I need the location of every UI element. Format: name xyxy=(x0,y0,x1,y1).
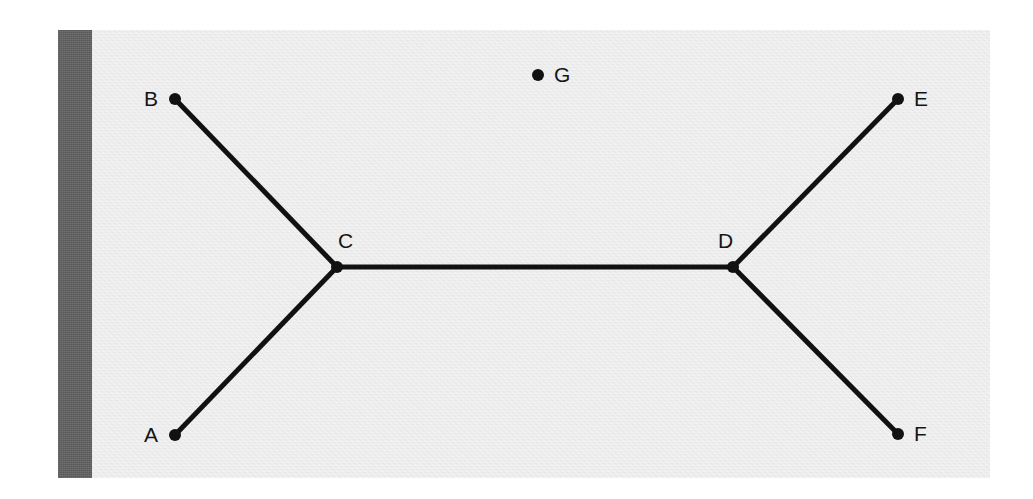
graph-node-label-D: D xyxy=(718,230,733,251)
graph-node-label-A: A xyxy=(144,424,158,445)
graph-edge-B-C xyxy=(175,99,337,267)
graph-node-B xyxy=(169,93,181,105)
graph-edge-D-F xyxy=(733,267,898,434)
graph-node-E xyxy=(892,93,904,105)
graph-node-label-C: C xyxy=(338,230,353,251)
graph-node-D xyxy=(727,261,739,273)
graph-node-label-G: G xyxy=(554,64,570,85)
edge-layer xyxy=(175,99,898,435)
figure-root: ABCDEFG xyxy=(0,0,1033,499)
graph-node-C xyxy=(331,261,343,273)
node-layer xyxy=(169,69,904,441)
graph-node-A xyxy=(169,429,181,441)
graph-node-label-E: E xyxy=(914,88,928,109)
graph-node-label-B: B xyxy=(144,88,158,109)
graph-node-label-F: F xyxy=(914,423,927,444)
graph-edge-D-E xyxy=(733,99,898,267)
graph-edge-A-C xyxy=(175,267,337,435)
graph-node-F xyxy=(892,428,904,440)
graph-node-G xyxy=(532,69,544,81)
